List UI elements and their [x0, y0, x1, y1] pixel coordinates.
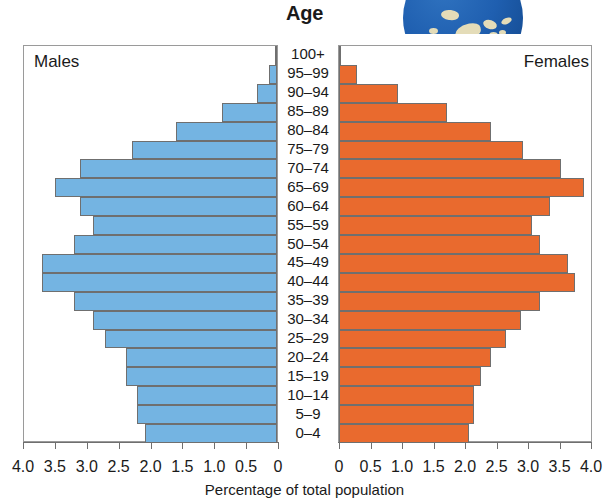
axis-tick	[402, 442, 403, 449]
males-plot-panel	[23, 45, 278, 442]
axis-tick	[560, 442, 561, 449]
bar-row	[339, 273, 591, 292]
bar-males-30–34	[93, 311, 277, 330]
bar-males-15–19	[126, 367, 277, 386]
bar-row	[24, 273, 277, 292]
bar-females-30–34	[339, 311, 521, 330]
globe-landmass	[489, 32, 498, 34]
bar-row	[24, 292, 277, 311]
bar-row	[24, 348, 277, 367]
axis-tick	[278, 442, 279, 449]
globe-landmass	[499, 30, 506, 34]
bar-row	[339, 84, 591, 103]
bar-females-10–14	[339, 386, 474, 405]
bar-row	[339, 103, 591, 122]
bar-females-90–94	[339, 84, 398, 103]
bar-row	[24, 178, 277, 197]
bar-row	[339, 254, 591, 273]
bar-females-45–49	[339, 254, 568, 273]
bar-males-85–89	[222, 103, 277, 122]
age-label-70–74: 70–74	[278, 160, 338, 175]
bar-males-75–79	[132, 141, 277, 160]
bar-row	[24, 122, 277, 141]
age-label-75–79: 75–79	[278, 141, 338, 156]
bar-males-40–44	[42, 273, 277, 292]
bar-males-50–54	[74, 235, 277, 254]
age-label-50–54: 50–54	[278, 236, 338, 251]
axis-tick-label: 2.0	[139, 458, 161, 476]
age-label-45–49: 45–49	[278, 254, 338, 269]
age-label-65–69: 65–69	[278, 179, 338, 194]
females-bar-rows	[339, 46, 591, 441]
bar-males-100+	[275, 46, 277, 65]
bar-row	[24, 84, 277, 103]
bar-males-45–49	[42, 254, 277, 273]
bar-males-95–99	[269, 65, 277, 84]
bar-row	[339, 197, 591, 216]
age-label-90–94: 90–94	[278, 84, 338, 99]
bar-females-35–39	[339, 292, 540, 311]
bar-row	[339, 311, 591, 330]
age-label-0–4: 0–4	[278, 425, 338, 440]
age-label-5–9: 5–9	[278, 406, 338, 421]
axis-tick-label: 4.0	[580, 458, 602, 476]
age-label-55–59: 55–59	[278, 217, 338, 232]
bar-males-60–64	[80, 197, 277, 216]
axis-tick	[371, 442, 372, 449]
bar-row	[24, 159, 277, 178]
axis-tick-label: 2.0	[454, 458, 476, 476]
males-bar-rows	[24, 46, 277, 441]
axis-tick	[87, 442, 88, 449]
age-label-35–39: 35–39	[278, 292, 338, 307]
axis-tick	[339, 442, 340, 449]
axis-tick	[23, 442, 24, 449]
bar-row	[24, 424, 277, 443]
bar-row	[339, 386, 591, 405]
age-label-10–14: 10–14	[278, 387, 338, 402]
bar-females-60–64	[339, 197, 550, 216]
bar-females-85–89	[339, 103, 447, 122]
bar-females-80–84	[339, 122, 491, 141]
axis-tick	[465, 442, 466, 449]
bar-males-90–94	[257, 84, 277, 103]
axis-tick-label: 3.0	[76, 458, 98, 476]
bar-row	[339, 159, 591, 178]
bar-males-10–14	[137, 386, 277, 405]
axis-tick-label: 2.5	[108, 458, 130, 476]
axis-tick	[528, 442, 529, 449]
bar-males-35–39	[74, 292, 277, 311]
age-label-80–84: 80–84	[278, 122, 338, 137]
bar-males-55–59	[93, 216, 277, 235]
bar-row	[339, 141, 591, 160]
bar-row	[339, 348, 591, 367]
axis-tick-label: 0	[335, 458, 344, 476]
bar-females-70–74	[339, 159, 561, 178]
bar-females-40–44	[339, 273, 575, 292]
bar-row	[339, 367, 591, 386]
bar-females-55–59	[339, 216, 532, 235]
bar-females-100+	[339, 46, 341, 65]
age-label-20–24: 20–24	[278, 349, 338, 364]
axis-tick-label: 4.0	[12, 458, 34, 476]
bar-row	[339, 405, 591, 424]
bar-females-5–9	[339, 405, 474, 424]
bar-males-0–4	[145, 424, 277, 443]
age-label-25–29: 25–29	[278, 330, 338, 345]
females-series-label: Females	[524, 52, 589, 72]
bar-row	[339, 292, 591, 311]
bar-row	[24, 367, 277, 386]
bar-row	[24, 235, 277, 254]
bar-females-50–54	[339, 235, 540, 254]
axis-tick-label: 3.5	[548, 458, 570, 476]
axis-tick-label: 1.5	[171, 458, 193, 476]
bar-row	[339, 330, 591, 349]
age-group-axis: 100+95–9990–9485–8980–8475–7970–7465–696…	[278, 45, 338, 442]
bar-males-5–9	[137, 405, 277, 424]
age-label-100+: 100+	[278, 46, 338, 61]
axis-tick-label: 3.5	[44, 458, 66, 476]
bar-row	[339, 235, 591, 254]
bar-females-15–19	[339, 367, 481, 386]
axis-tick-label: 0	[274, 458, 283, 476]
age-label-60–64: 60–64	[278, 198, 338, 213]
globe-landmass	[429, 28, 438, 34]
